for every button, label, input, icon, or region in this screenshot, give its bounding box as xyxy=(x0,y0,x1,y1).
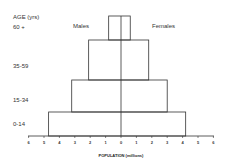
x-tick-label: 5 xyxy=(197,140,200,145)
x-axis-ticks: 6543210123456 xyxy=(27,136,215,145)
y-axis-title: AGE (yrs) xyxy=(13,14,39,20)
x-tick-label: 4 xyxy=(181,140,184,145)
age-label: 35-59 xyxy=(13,63,29,69)
age-category-labels: 0-1415-3435-5960 + xyxy=(13,24,29,127)
x-tick-label: 4 xyxy=(58,140,61,145)
bar-0-14 xyxy=(49,112,186,136)
x-tick-label: 1 xyxy=(135,140,138,145)
bar-60 + xyxy=(109,16,131,40)
x-tick-label: 6 xyxy=(212,140,215,145)
age-label: 60 + xyxy=(13,24,25,30)
x-tick-label: 2 xyxy=(151,140,154,145)
x-tick-label: 2 xyxy=(89,140,92,145)
age-label: 0-14 xyxy=(13,121,26,127)
bar-35-59 xyxy=(89,40,149,80)
age-label: 15-34 xyxy=(13,97,29,103)
bars xyxy=(49,16,186,136)
x-tick-label: 1 xyxy=(104,140,107,145)
x-tick-label: 3 xyxy=(166,140,169,145)
x-tick-label: 6 xyxy=(27,140,30,145)
x-axis-title: POPULATION (millions) xyxy=(99,153,144,158)
population-pyramid-chart: 6543210123456 0-1415-3435-5960 + AGE (yr… xyxy=(0,0,229,165)
x-tick-label: 5 xyxy=(43,140,46,145)
x-tick-label: 3 xyxy=(74,140,77,145)
bar-15-34 xyxy=(72,80,167,112)
females-label: Females xyxy=(152,23,175,29)
x-tick-label: 0 xyxy=(120,140,123,145)
males-label: Males xyxy=(73,23,89,29)
